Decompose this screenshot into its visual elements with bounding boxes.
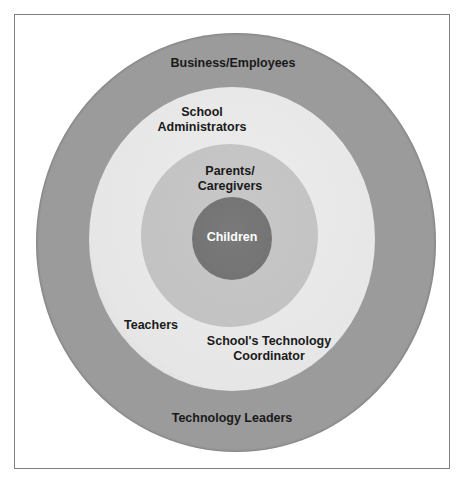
label-text: Technology Leaders (132, 411, 332, 426)
label-technology-coordinator: School's Technology Coordinator (199, 334, 339, 364)
label-teachers: Teachers (124, 318, 178, 333)
label-line-1: School (142, 105, 262, 120)
label-text: Teachers (124, 318, 178, 333)
label-line-2: Administrators (142, 120, 262, 135)
label-line-2: Coordinator (199, 349, 339, 364)
label-business-employees: Business/Employees (133, 56, 333, 71)
label-line-1: School's Technology (199, 334, 339, 349)
label-technology-leaders: Technology Leaders (132, 411, 332, 426)
label-text: Children (192, 230, 272, 245)
label-children: Children (192, 230, 272, 245)
label-parents-caregivers: Parents/ Caregivers (170, 164, 290, 194)
label-line-1: Parents/ (170, 164, 290, 179)
label-line-2: Caregivers (170, 179, 290, 194)
label-text: Business/Employees (133, 56, 333, 71)
label-school-administrators: School Administrators (142, 105, 262, 135)
